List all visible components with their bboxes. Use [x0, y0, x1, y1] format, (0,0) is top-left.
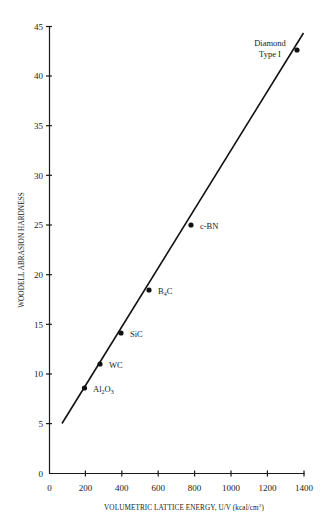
label-cbn: c-BN [200, 221, 218, 231]
y-tick-40: 40 [34, 71, 44, 81]
point-wc [97, 361, 102, 366]
y-tick-20: 20 [34, 270, 44, 280]
x-axis [49, 471, 305, 477]
label-sic: SiC [130, 329, 143, 339]
y-tick-0: 0 [39, 469, 44, 479]
hardness-vs-lattice-energy-chart: 0 5 10 15 20 25 30 35 40 45 0 200 400 60… [0, 0, 332, 532]
point-b4c [146, 287, 151, 292]
label-diamond-line2: Type I [259, 49, 281, 59]
y-axis [46, 26, 52, 474]
y-tick-35: 35 [34, 121, 44, 131]
x-tick-1200: 1200 [258, 483, 277, 493]
y-tick-30: 30 [34, 171, 44, 181]
y-axis-title: WOODELL ABRASION HARDNESS [18, 192, 26, 308]
x-tick-600: 600 [151, 483, 165, 493]
y-tick-25: 25 [34, 220, 44, 230]
label-diamond-line1: Diamond [254, 38, 286, 48]
x-axis-title: VOLUMETRIC LATTICE ENERGY, U/V (kcal/cm3… [104, 503, 264, 512]
x-tick-400: 400 [115, 483, 129, 493]
point-diamond [294, 47, 299, 52]
x-tick-800: 800 [188, 483, 202, 493]
y-tick-45: 45 [34, 22, 44, 32]
y-tick-5: 5 [39, 419, 44, 429]
y-tick-labels: 0 5 10 15 20 25 30 35 40 45 [34, 22, 44, 479]
label-al2o3: Al2O3 [93, 384, 114, 395]
x-tick-1400: 1400 [295, 483, 314, 493]
label-b4c: B4C [158, 286, 173, 297]
x-tick-0: 0 [47, 483, 52, 493]
point-sic [118, 330, 123, 335]
y-tick-10: 10 [34, 369, 44, 379]
point-cbn [188, 222, 193, 227]
x-tick-200: 200 [79, 483, 93, 493]
x-tick-labels: 0 200 400 600 800 1000 1200 1400 [47, 483, 313, 493]
x-tick-1000: 1000 [222, 483, 241, 493]
y-tick-15: 15 [34, 320, 44, 330]
point-al2o3 [82, 385, 87, 390]
label-wc: WC [109, 360, 123, 370]
